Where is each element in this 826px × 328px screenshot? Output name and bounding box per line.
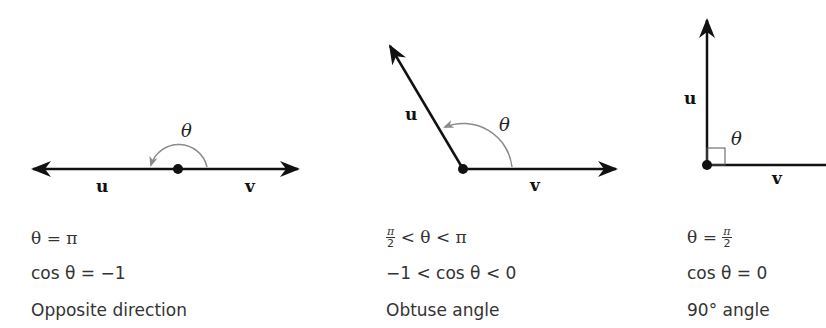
origin-point bbox=[173, 164, 183, 174]
description-text: Obtuse angle bbox=[386, 300, 500, 320]
theta-equation: θ = π bbox=[31, 228, 77, 248]
theta-label: θ bbox=[181, 120, 192, 141]
vector-v-label: v bbox=[244, 176, 256, 196]
panel-right-cos: cos θ = 0 bbox=[687, 265, 767, 282]
description-text: Opposite direction bbox=[31, 300, 187, 320]
cos-inequality: −1 < cos θ < 0 bbox=[386, 263, 516, 283]
origin-point bbox=[702, 160, 712, 170]
panel-obtuse-inequality: π2 < θ < π bbox=[386, 226, 467, 249]
theta-label: θ bbox=[499, 114, 510, 135]
panel-right: θ u v bbox=[684, 20, 826, 188]
panel-right-equation: θ = π2 bbox=[687, 226, 732, 249]
vector-u-arrow bbox=[390, 46, 463, 169]
panel-obtuse-cos: −1 < cos θ < 0 bbox=[386, 265, 516, 282]
origin-point bbox=[458, 164, 468, 174]
theta-equals: θ = bbox=[687, 227, 717, 247]
inequality-rest: < θ < π bbox=[401, 227, 467, 247]
description-text: 90° angle bbox=[687, 300, 770, 320]
fraction-pi-over-2: π2 bbox=[386, 226, 395, 249]
panel-obtuse-description: Obtuse angle bbox=[386, 302, 500, 319]
vector-u-label: u bbox=[405, 104, 417, 124]
panel-opposite: θ u v bbox=[33, 120, 298, 196]
cos-equation: cos θ = 0 bbox=[687, 263, 767, 283]
cos-equation: cos θ = −1 bbox=[31, 263, 126, 283]
panel-opposite-description: Opposite direction bbox=[31, 302, 187, 319]
panel-opposite-equation: θ = π bbox=[31, 230, 77, 247]
vector-v-label: v bbox=[771, 168, 783, 188]
vector-u-label: u bbox=[96, 176, 108, 196]
vector-u-label: u bbox=[684, 88, 696, 108]
vector-v-label: v bbox=[529, 175, 541, 195]
theta-label: θ bbox=[731, 128, 742, 149]
fraction-pi-over-2: π2 bbox=[722, 226, 731, 249]
panel-obtuse: θ u v bbox=[390, 46, 616, 195]
panel-right-description: 90° angle bbox=[687, 302, 770, 319]
angle-arc bbox=[151, 144, 207, 167]
panel-opposite-cos: cos θ = −1 bbox=[31, 265, 126, 282]
